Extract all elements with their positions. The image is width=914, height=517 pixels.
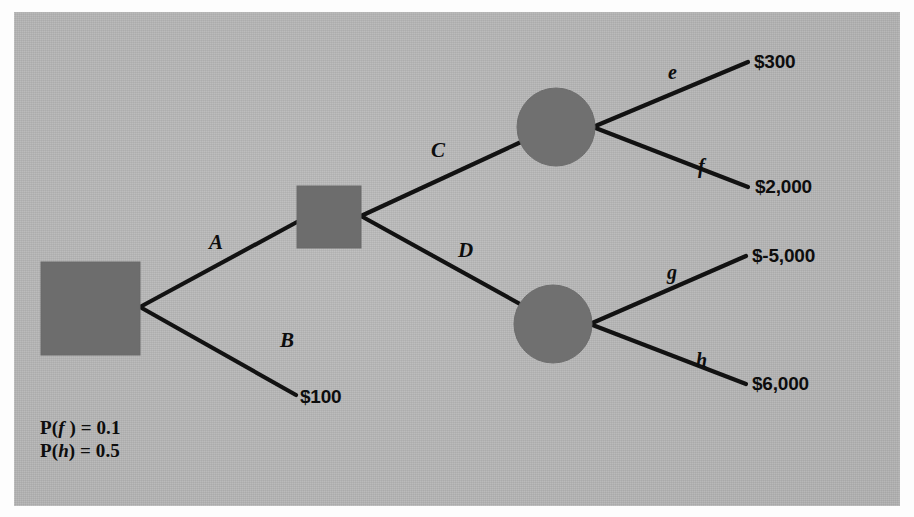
branch-line-h (590, 324, 746, 384)
probability-line-h: P(h) = 0.5 (40, 439, 121, 462)
payoff-label-f: $2,000 (755, 177, 812, 196)
root-decision-node[interactable] (41, 262, 140, 355)
upper-chance-node[interactable] (517, 88, 595, 166)
branch-label-g: g (667, 262, 677, 282)
branch-label-d: D (458, 240, 473, 261)
probability-line-f: P(f ) = 0.1 (40, 416, 121, 439)
payoff-label-h: $6,000 (752, 374, 809, 393)
branch-label-c: C (431, 140, 445, 161)
branch-line-b (140, 307, 296, 395)
payoff-label-b: $100 (300, 387, 341, 406)
figure-canvas: A B C D e f g h $300 $2,000 $100 $-5,000… (0, 0, 914, 517)
prob-f-prefix: P( (40, 417, 58, 438)
prob-h-variable: h (58, 440, 69, 461)
prob-f-value: ) = 0.1 (65, 417, 121, 438)
branch-label-e: e (668, 62, 677, 82)
branch-line-d (361, 216, 520, 304)
branch-line-f (593, 127, 748, 187)
branch-label-f: f (698, 156, 705, 176)
branch-label-a: A (209, 232, 223, 253)
branch-label-b: B (280, 330, 294, 351)
prob-h-prefix: P( (40, 440, 58, 461)
payoff-label-g: $-5,000 (752, 246, 815, 265)
payoff-label-e: $300 (754, 52, 795, 71)
prob-h-value: ) = 0.5 (69, 440, 120, 461)
lower-chance-node[interactable] (514, 285, 592, 363)
second-decision-node[interactable] (297, 186, 361, 248)
probability-annotations: P(f ) = 0.1 P(h) = 0.5 (40, 416, 121, 462)
branch-label-h: h (696, 350, 707, 370)
